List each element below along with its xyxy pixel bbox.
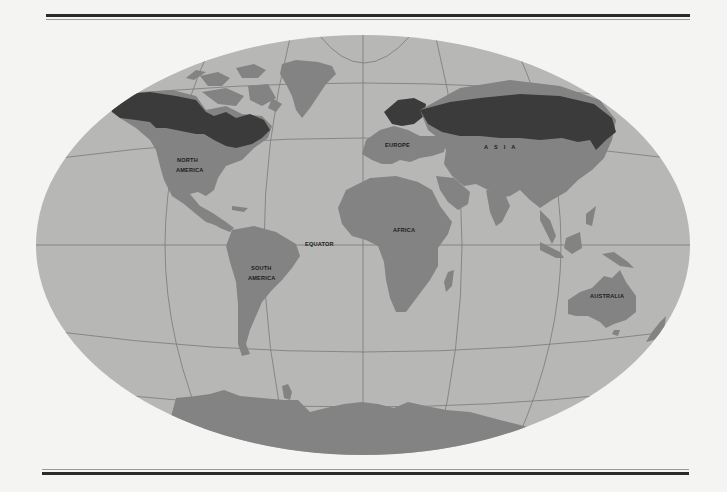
label-south-america-1: SOUTH (251, 265, 272, 271)
label-europe: EUROPE (385, 142, 410, 148)
bottom-rule (42, 469, 689, 475)
world-map: NORTH AMERICA SOUTH AMERICA EUROPE ASIA … (0, 0, 727, 492)
label-australia: AUSTRALIA (590, 293, 624, 299)
label-south-america-2: AMERICA (248, 275, 276, 281)
label-north-america-2: AMERICA (176, 167, 204, 173)
label-asia: ASIA (484, 144, 521, 150)
label-north-america-1: NORTH (177, 157, 198, 163)
bottom-rule-thin (42, 469, 689, 470)
label-africa: AFRICA (393, 227, 415, 233)
bottom-rule-thick (42, 472, 689, 475)
label-equator: EQUATOR (305, 241, 334, 247)
